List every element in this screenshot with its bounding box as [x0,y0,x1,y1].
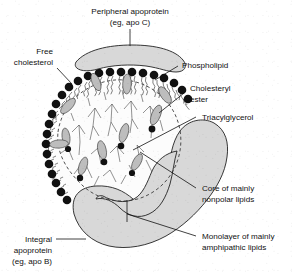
core-nonpolar-line1: Core of mainly [202,184,255,193]
monolayer-amphipathic-line2: amphipathic lipids [202,243,266,252]
label-integral-apoprotein: Integral apoprotein (eg, apo B) [12,235,52,266]
integral-apoprotein-line2: apoprotein [14,246,52,255]
core-nonpolar-line2: nonpolar lipids [202,195,254,204]
free-cholesterol-line2: cholesterol [14,58,53,67]
label-monolayer-amphipathic: Monolayer of mainly amphipathic lipids [202,232,275,252]
peripheral-apoprotein-line2: (eg, apo C) [110,18,151,27]
label-peripheral-apoprotein: Peripheral apoprotein (eg, apo C) [91,7,168,27]
label-triacylglycerol: Triacylglycerol [202,113,254,122]
label-phospholipid: Phospholipid [182,61,228,70]
peripheral-apoprotein-shape [75,45,185,72]
peripheral-apoprotein-line1: Peripheral apoprotein [91,7,168,16]
phospholipid-line1: Phospholipid [182,61,228,70]
integral-apoprotein-line1: Integral [25,235,52,244]
integral-apoprotein-line3: (eg, apo B) [12,257,52,266]
monolayer-amphipathic-line1: Monolayer of mainly [202,232,275,241]
leader-free-cholesterol [57,68,72,84]
label-cholesteryl-ester: Cholesteryl ester [190,84,231,104]
lipoprotein-diagram: Peripheral apoprotein (eg, apo C) Free c… [0,0,292,278]
free-cholesterol-line1: Free [36,47,53,56]
cholesteryl-ester-line2: ester [190,95,208,104]
cholesteryl-ester-line1: Cholesteryl [190,84,231,93]
triacylglycerol-line1: Triacylglycerol [202,113,254,122]
label-free-cholesterol: Free cholesterol [14,47,54,67]
